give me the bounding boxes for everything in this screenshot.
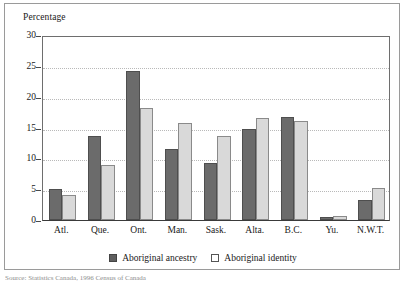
legend-label-ancestry: Aboriginal ancestry [122,253,197,263]
bar-ancestry [165,149,179,220]
bar-group [49,37,76,220]
x-axis-tick-label: Sask. [206,225,226,235]
y-axis-tick-mark [36,98,41,99]
bar-group [358,37,385,220]
legend-swatch-icon-ancestry [109,254,117,262]
y-axis-ticks [5,36,42,221]
bar-identity [372,188,386,220]
legend-item-identity: Aboriginal identity [211,253,297,263]
bar-identity [217,136,231,220]
x-axis-tick-label: N.W.T. [357,225,384,235]
bar-group [242,37,269,220]
bar-ancestry [281,117,295,220]
x-axis-tick-label: Ont. [130,225,147,235]
bar-identity [101,165,115,220]
y-axis-tick-mark [36,221,41,222]
source-note: Source: Statistics Canada, 1996 Census o… [5,274,403,282]
x-axis-tick-label: Que. [91,225,109,235]
chart-figure: Percentage 051015202530 Atl.Que.Ont.Man.… [4,3,400,270]
bar-identity [294,121,308,220]
x-axis-tick-label: Atl. [54,225,69,235]
bar-group [126,37,153,220]
bar-ancestry [320,217,334,220]
bar-group [281,37,308,220]
bar-ancestry [88,136,102,220]
x-axis-tick-label: Yu. [326,225,339,235]
plot-area [42,36,390,221]
bar-ancestry [49,189,63,220]
bar-ancestry [358,200,372,220]
bar-ancestry [204,163,218,220]
x-axis-tick-label: B.C. [285,225,302,235]
y-axis-tick-mark [36,129,41,130]
bar-identity [62,195,76,220]
bar-ancestry [126,71,140,220]
y-axis-tick-mark [36,67,41,68]
x-axis-tick-label: Man. [167,225,187,235]
x-axis-tick-label: Alta. [245,225,264,235]
chart-legend: Aboriginal ancestry Aboriginal identity [5,253,401,263]
legend-item-ancestry: Aboriginal ancestry [109,253,197,263]
bar-identity [256,118,270,220]
bar-group [165,37,192,220]
bar-ancestry [242,129,256,220]
plot-inner [43,37,389,220]
bar-group [320,37,347,220]
legend-swatch-icon-identity [211,254,219,262]
x-axis-labels: Atl.Que.Ont.Man.Sask.Alta.B.C.Yu.N.W.T. [42,225,390,241]
y-axis-tick-mark [36,190,41,191]
bar-group [88,37,115,220]
bar-group [204,37,231,220]
legend-label-identity: Aboriginal identity [224,253,297,263]
y-axis-tick-mark [36,36,41,37]
bar-identity [178,123,192,220]
bar-identity [140,108,154,220]
bar-identity [333,216,347,220]
y-axis-tick-mark [36,159,41,160]
y-axis-title: Percentage [23,12,66,22]
